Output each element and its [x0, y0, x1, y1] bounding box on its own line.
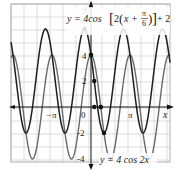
equation-bottom: y = 4 cos 2x — [99, 153, 157, 165]
data-point — [92, 79, 96, 83]
tick-neg4: -4 — [77, 154, 85, 164]
tick-2: 2 — [82, 76, 87, 86]
x-axis-label: x — [162, 109, 168, 120]
x-axis-left-arrow-icon — [9, 105, 15, 109]
svg-text:x +: x + — [123, 13, 138, 24]
x-axis-arrow-icon — [167, 105, 174, 110]
tick-pi: π — [128, 110, 133, 120]
svg-text:+ 2: + 2 — [157, 13, 170, 24]
tick-4: 4 — [82, 51, 87, 61]
data-point — [102, 131, 106, 135]
svg-text:(: ( — [119, 11, 123, 26]
tick-zero: 0 — [81, 110, 86, 120]
svg-text:6: 6 — [142, 19, 146, 28]
svg-text:y = 4 cos 2x: y = 4 cos 2x — [99, 154, 150, 165]
svg-text:y = 4cos: y = 4cos — [66, 13, 102, 24]
data-point — [92, 105, 96, 109]
chart: y x −π 0 π 4 2 -2 -4 y = 4cos [ 2 ( x + … — [0, 0, 180, 184]
tick-neg-pi: −π — [46, 110, 57, 120]
y-axis-down-arrow-icon — [89, 164, 94, 170]
equation-top: y = 4cos [ 2 ( x + π 6 ) ] + 2 — [66, 7, 170, 35]
svg-text:π: π — [142, 9, 146, 18]
data-point — [89, 53, 93, 57]
marked-points — [82, 27, 112, 161]
data-point — [99, 105, 103, 109]
tick-neg2: -2 — [77, 128, 85, 138]
